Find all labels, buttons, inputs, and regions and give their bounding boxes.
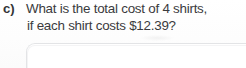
answer-input-box[interactable]: [26, 43, 246, 68]
question-letter-label: c): [3, 1, 14, 17]
scan-artifact-smudge: [140, 35, 174, 41]
question-text: What is the total cost of 4 shirts, if e…: [26, 0, 246, 34]
question-text-line-2: if each shirt costs $12.39?: [27, 17, 246, 34]
question-text-line-1: What is the total cost of 4 shirts,: [26, 0, 246, 17]
worksheet-question-card: c) What is the total cost of 4 shirts, i…: [0, 0, 246, 68]
